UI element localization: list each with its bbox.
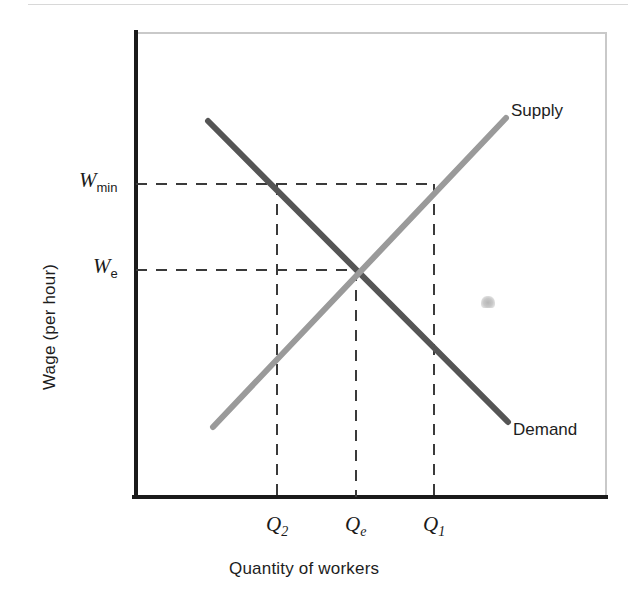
we-tick-label: We [93,254,118,281]
we-tick-sub: e [111,266,118,281]
y-axis-title: Wage (per hour) [40,264,60,390]
we-tick-main: W [93,254,111,278]
qe-tick-sub: e [360,524,366,539]
wmin-tick-main: W [79,168,97,192]
q2-tick-label: Q2 [266,512,288,540]
wmin-tick-label: Wmin [79,168,117,195]
demand-curve-label: Demand [513,420,577,440]
q1-tick-label: Q1 [423,512,445,540]
q1-tick-sub: 1 [438,524,445,539]
q2-tick-main: Q [266,512,281,536]
x-axis-title: Quantity of workers [229,559,379,579]
qe-tick-main: Q [345,512,360,536]
supply-curve [213,118,506,427]
scan-smudge-artifact [481,296,495,308]
q1-tick-main: Q [423,512,438,536]
supply-curve-label-text: Supply [511,101,563,120]
figure-root: Wage (per hour) Quantity of workers Supp… [0,0,638,602]
supply-curve-label: Supply [511,101,563,121]
y-axis-title-text: Wage (per hour) [40,264,59,390]
demand-curve-label-text: Demand [513,420,577,439]
wmin-tick-sub: min [97,180,118,195]
qe-tick-label: Qe [345,512,366,540]
q2-tick-sub: 2 [281,524,288,539]
supply-demand-chart [0,0,638,602]
x-axis-title-text: Quantity of workers [229,559,379,578]
